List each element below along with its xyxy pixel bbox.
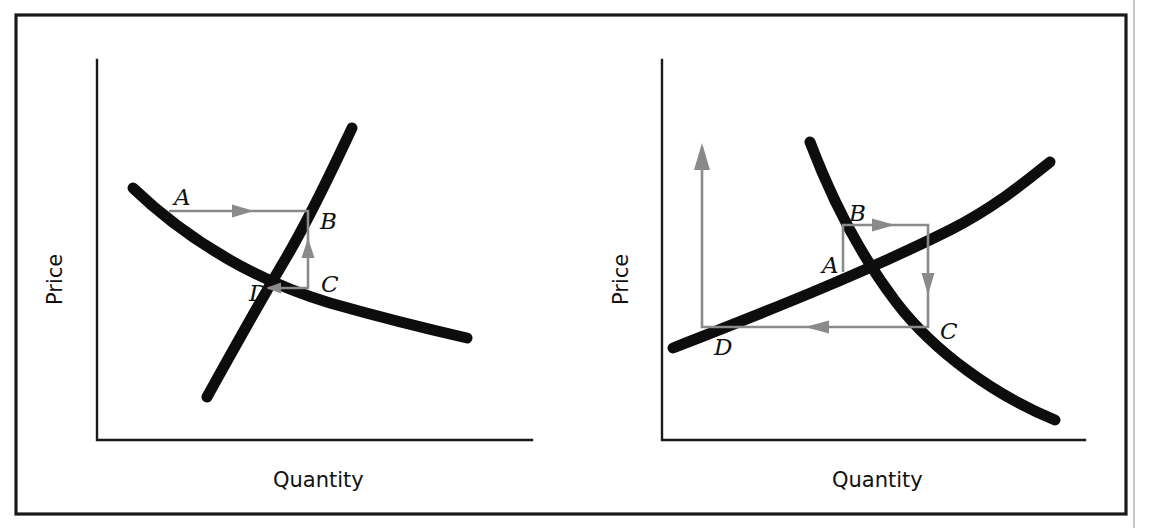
left-panel-x-axis-label: Quantity <box>273 468 364 492</box>
right-panel-axes <box>662 60 1085 440</box>
left-panel-y-axis-label: Price <box>43 254 67 305</box>
right-panel-arrowhead-left-icon <box>805 321 829 334</box>
left-panel-arrowhead-right-icon <box>232 205 254 218</box>
right-panel-arrowhead-down-icon <box>922 273 935 295</box>
left-panel-arrowhead-up-icon <box>302 238 315 258</box>
right-panel-label-a: A <box>820 252 839 278</box>
right-panel-x-axis-label: Quantity <box>832 468 923 492</box>
left-panel-label-c: C <box>321 271 339 297</box>
right-panel-arrowhead-up-icon <box>694 143 710 170</box>
left-panel-axes <box>97 60 532 440</box>
left-panel-label-b: B <box>319 208 337 234</box>
figure-canvas: A B C D Price Quantity <box>0 0 1151 528</box>
right-panel-label-b: B <box>848 200 866 226</box>
right-panel-arrowhead-right-icon <box>872 219 895 232</box>
left-panel: A B C D Price Quantity <box>43 60 532 492</box>
right-panel-y-axis-label: Price <box>609 254 633 305</box>
right-panel-label-c: C <box>940 318 958 344</box>
right-panel-label-d: D <box>713 334 732 360</box>
right-panel: A B C D Price Quantity <box>609 60 1085 492</box>
economics-figure: A B C D Price Quantity <box>0 0 1151 528</box>
left-panel-label-d: D <box>248 280 267 306</box>
left-panel-label-a: A <box>172 184 191 210</box>
